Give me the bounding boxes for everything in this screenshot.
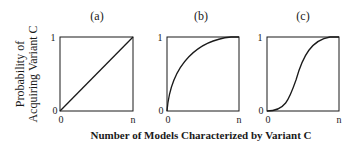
panel-c-ytick-1: 1 [258, 32, 263, 43]
panel-c-xtick-0: 0 [266, 114, 271, 125]
figure: Probability of Acquiring Variant C (a) 1… [0, 0, 357, 144]
panel-c-title: (c) [296, 9, 309, 23]
panel-a-xtick-0: 0 [59, 114, 64, 125]
panel-b-curve [167, 37, 239, 111]
panel-c-xtick-n: n [337, 114, 342, 125]
panel-a-ytick-1: 1 [51, 32, 56, 43]
panel-a-curve [60, 37, 133, 111]
panel-c-curve [267, 37, 339, 111]
y-axis-title-line2: Acquiring Variant C [26, 25, 40, 122]
panel-b-frame [167, 37, 239, 111]
panel-b-ytick-1: 1 [158, 32, 163, 43]
panel-b-ytick-0: 0 [159, 105, 164, 116]
y-axis-title-line1: Probability of [13, 41, 27, 107]
panel-c-frame [267, 37, 339, 111]
x-axis-title: Number of Models Characterized by Varian… [91, 129, 312, 141]
panel-c: (c) 1 0 0 n [258, 9, 342, 125]
panel-a: (a) 1 0 0 n [51, 9, 136, 125]
panel-c-ytick-0: 0 [259, 105, 264, 116]
panel-a-xtick-n: n [131, 114, 136, 125]
panel-b-xtick-n: n [237, 114, 242, 125]
panel-a-title: (a) [90, 9, 103, 23]
panel-b: (b) 1 0 0 n [158, 9, 242, 125]
panel-b-xtick-0: 0 [166, 114, 171, 125]
panel-a-ytick-0: 0 [53, 105, 58, 116]
panel-b-title: (b) [194, 9, 208, 23]
